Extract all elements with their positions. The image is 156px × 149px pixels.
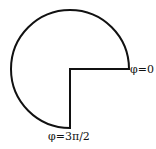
sector-contour — [11, 10, 129, 128]
sector-diagram: φ=0 φ=3π/2 — [0, 0, 156, 149]
label-phi-three-pi-over-two: φ=3π/2 — [48, 130, 90, 143]
label-phi-zero: φ=0 — [130, 63, 154, 76]
